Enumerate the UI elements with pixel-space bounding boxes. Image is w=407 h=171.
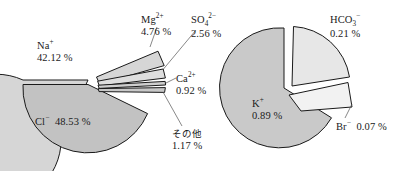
slice-label-k-charge: + [260, 96, 264, 104]
slice-label-na-name: Na [37, 40, 49, 51]
pie-slice-others[interactable] [98, 88, 165, 93]
leader-line-ca [166, 78, 176, 83]
slice-label-na: Na+ 42.12 % [37, 38, 73, 64]
slice-label-hco3-pct: 0.21 % [330, 28, 360, 40]
slice-label-so4-sub: 4 [205, 20, 209, 28]
slice-label-mg-name: Mg [141, 14, 156, 25]
slice-label-others: その他 1.17 % [172, 129, 202, 152]
slice-label-others-name: その他 [172, 128, 202, 139]
slice-label-na-charge: + [49, 38, 53, 46]
slice-label-so4-pct: 2.56 % [191, 28, 221, 40]
slice-label-hco3-sub: 3 [352, 20, 356, 28]
pie-slice-br[interactable] [289, 83, 352, 112]
slice-label-ca-name: Ca [176, 73, 188, 84]
slice-label-k-name: K [252, 98, 260, 109]
slice-label-ca-pct: 0.92 % [176, 85, 206, 97]
slice-label-cl-name: Cl [35, 116, 45, 127]
slice-label-others-pct: 1.17 % [172, 140, 202, 152]
slice-label-so4-name: SO [191, 14, 205, 25]
slice-label-mg-pct: 4.76 % [141, 26, 171, 38]
slice-label-k-pct: 0.89 % [252, 110, 282, 122]
slice-label-br: Br− 0.07 % [336, 119, 387, 133]
slice-label-br-charge: − [347, 119, 351, 127]
slice-label-ca: Ca2+ 0.92 % [176, 71, 206, 97]
slice-label-br-name: Br [336, 121, 347, 132]
pie-chart-figure: Na+ 42.12 % Cl− 48.53 % Mg2+ 4.76 % SO42… [0, 0, 407, 171]
slice-label-hco3-name: HCO [330, 14, 352, 25]
slice-label-so4-charge: 2− [208, 12, 216, 20]
slice-label-cl-pct: 48.53 % [55, 116, 91, 127]
slice-label-cl: Cl− 48.53 % [35, 114, 91, 128]
slice-label-hco3-charge: − [356, 12, 360, 20]
leader-line-others [163, 92, 182, 126]
slice-label-mg-charge: 2+ [156, 12, 164, 20]
slice-label-so4: SO42− 2.56 % [191, 12, 221, 40]
major-ions-pie [0, 27, 196, 171]
slice-label-mg: Mg2+ 4.76 % [141, 12, 171, 38]
slice-label-na-pct: 42.12 % [37, 52, 73, 64]
slice-label-cl-charge: − [45, 114, 49, 122]
slice-label-ca-charge: 2+ [188, 71, 196, 79]
slice-label-hco3: HCO3− 0.21 % [330, 12, 360, 40]
minor-ions-pie [220, 27, 352, 148]
slice-label-k: K+ 0.89 % [252, 96, 282, 122]
slice-label-br-pct: 0.07 % [357, 121, 387, 132]
